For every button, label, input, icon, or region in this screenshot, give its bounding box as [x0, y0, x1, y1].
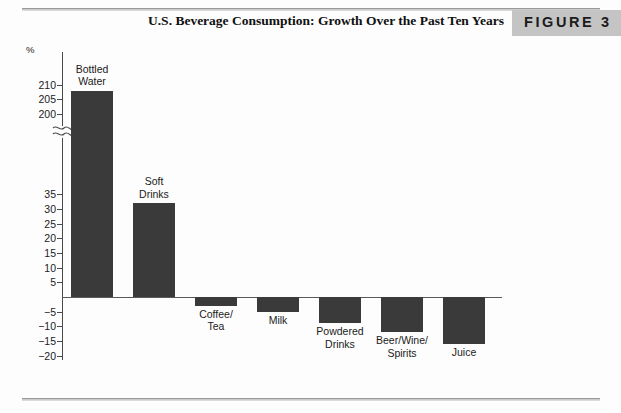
y-axis-unit-label: %	[26, 44, 34, 55]
bar-category-label: Milk	[237, 314, 319, 327]
y-axis-tick-label: 25	[22, 219, 56, 230]
y-axis-tick-label: −20	[22, 351, 56, 362]
figure-page: FIGURE 3 U.S. Beverage Consumption: Grow…	[0, 0, 621, 413]
bar	[381, 297, 423, 332]
y-axis-tick-label: 35	[22, 189, 56, 200]
bar	[257, 297, 299, 312]
y-axis-tick-mark	[57, 253, 63, 254]
bar	[71, 91, 113, 297]
y-axis-tick-mark	[57, 341, 63, 342]
y-axis-tick-label: −15	[22, 336, 56, 347]
y-axis-tick-mark	[57, 114, 63, 115]
y-axis-tick-label: −5	[22, 307, 56, 318]
bar	[195, 297, 237, 306]
y-axis-tick-label: 205	[22, 94, 56, 105]
y-axis-tick-label: −10	[22, 321, 56, 332]
bar-category-label: Soft Drinks	[113, 175, 195, 200]
y-axis-tick-label: 15	[22, 248, 56, 259]
y-axis-tick-label: 30	[22, 204, 56, 215]
y-axis-tick-mark	[57, 99, 63, 100]
y-axis-tick-mark	[57, 268, 63, 269]
bar-category-label: Juice	[423, 346, 505, 359]
y-axis-tick-label: 200	[22, 109, 56, 120]
y-axis-tick-mark	[57, 194, 63, 195]
y-axis-tick-mark	[57, 224, 63, 225]
bar	[133, 203, 175, 297]
y-axis-tick-label: 5	[22, 277, 56, 288]
y-axis-tick-mark	[57, 312, 63, 313]
y-axis-tick-label: 20	[22, 233, 56, 244]
y-axis-tick-mark	[57, 282, 63, 283]
bar	[443, 297, 485, 344]
y-axis-tick-mark	[57, 238, 63, 239]
y-axis-tick-mark	[57, 356, 63, 357]
y-axis-tick-mark	[57, 209, 63, 210]
y-axis-tick-label: 10	[22, 263, 56, 274]
bar-category-label: Bottled Water	[51, 63, 133, 88]
bar-chart-plot: % 2102052003530252015105−5−10−15−20 Bott…	[0, 0, 621, 413]
bar	[319, 297, 361, 323]
y-axis-tick-mark	[57, 326, 63, 327]
